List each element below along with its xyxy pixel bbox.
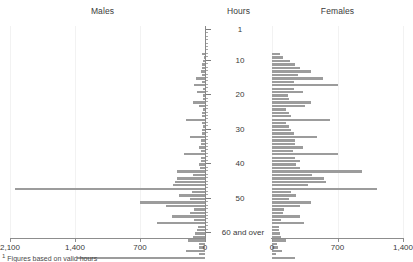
bar-male [199,253,205,255]
hour-tick [206,122,208,123]
gridline [403,26,404,238]
bar-female [272,191,291,193]
bar-female [272,112,289,114]
bar-female [272,239,286,241]
bar-male [184,153,205,155]
bar-male [194,219,205,221]
bar-female [272,122,286,124]
bar-female [272,150,293,152]
hour-tick [206,181,208,182]
hour-tick [206,177,208,178]
hour-tick [206,80,208,81]
bar-female [272,84,338,86]
hour-tick [206,222,208,223]
bar-female [272,63,295,65]
bar-male [193,101,205,103]
hour-tick [206,153,208,154]
bar-female [272,129,291,131]
bar-female [272,56,283,58]
bar-male [198,226,205,228]
bar-male [179,194,205,196]
bar-female [272,170,362,172]
hour-tick-label: 1 [210,24,270,33]
x-tick-label-females: 0 [270,243,274,252]
bar-female [272,53,280,55]
bar-female [272,163,296,165]
bar-male [175,181,205,183]
x-tick-males [10,238,11,242]
x-tick-label-males: 0 [203,243,207,252]
hour-tick-label: 50 [210,193,270,202]
hour-tick [206,118,208,119]
hour-tick-label: 10 [210,55,270,64]
bar-male [190,198,205,200]
hour-tick [206,63,208,64]
x-tick-males [140,238,141,242]
hour-tick [206,156,208,157]
bar-male [140,201,205,203]
bar-female [272,205,300,207]
x-tick-label-females: 1,400 [393,243,413,252]
bar-female [272,184,308,186]
females-plot-area [272,26,403,240]
x-tick-label-males: 1,400 [65,243,85,252]
bar-male [157,222,205,224]
axis-title-hours: Hours [205,6,272,16]
bar-female [272,108,286,110]
x-tick-males [205,238,206,242]
bar-female [272,105,305,107]
hour-tick [206,56,208,57]
bar-female [272,157,295,159]
hour-tick [206,39,208,40]
hour-tick [206,67,208,68]
bar-male [188,239,205,241]
bar-male [190,136,205,138]
bar-female [272,194,296,196]
hour-tick [206,143,208,144]
bar-female [272,115,291,117]
hour-tick-label: 40 [210,159,270,168]
bar-female [272,143,295,145]
bar-male [196,77,205,79]
x-tick-females [272,238,273,242]
hour-tick [206,218,208,219]
hour-tick [206,108,208,109]
bar-male [194,84,205,86]
hour-tick [206,167,208,168]
hour-tick [206,146,208,147]
hour-tick [206,53,208,54]
bar-male [173,184,206,186]
bar-male [15,188,205,190]
bar-male [194,208,205,210]
hour-tick [206,191,208,192]
hour-tick [206,194,208,195]
chart-footnote: 1 Figures based on valid hours [2,253,97,262]
hour-tick [206,46,208,47]
hours-worked-population-pyramid-chart: Males Hours Females 1 Figures based on v… [0,0,413,262]
hour-tick [206,136,208,137]
bar-female [272,253,276,255]
hour-tick-label: 30 [210,124,270,133]
bar-female [272,167,300,169]
hour-tick [206,91,208,92]
hour-tick [206,74,208,75]
x-tick-label-females: 700 [331,243,344,252]
panel-title-males: Males [0,6,205,16]
bar-female [272,91,303,93]
bar-male [195,232,205,234]
hour-tick [206,208,208,209]
bar-female [272,101,311,103]
hour-tick [206,98,208,99]
hour-tick [206,184,208,185]
x-tick-females [338,238,339,242]
hour-tick-label: 20 [210,90,270,99]
bar-female [272,81,294,83]
bar-female [272,74,298,76]
bar-female [272,139,295,141]
bar-male [172,215,205,217]
hour-tick-label: 60 and over [208,228,278,237]
x-tick-females [403,238,404,242]
males-plot-area [10,26,205,240]
hour-tick [206,170,208,171]
bar-female [272,222,304,224]
